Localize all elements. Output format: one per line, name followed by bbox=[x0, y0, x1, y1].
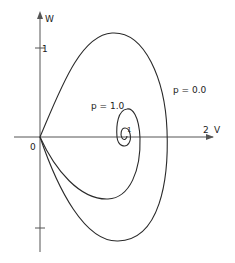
phase-plane-diagram: W 1 0 2 V 1 p = 1.0 p = 0.0 bbox=[0, 0, 235, 263]
fixed-point-label: 1 bbox=[127, 126, 131, 134]
w-tick-label: 1 bbox=[42, 44, 48, 54]
v-tick-label: 2 bbox=[203, 125, 209, 135]
curve-label-p-1: p = 1.0 bbox=[91, 101, 125, 111]
curve-label-p-0: p = 0.0 bbox=[173, 85, 207, 95]
curve-p-1 bbox=[40, 109, 140, 199]
v-axis bbox=[14, 134, 214, 140]
w-axis-label: W bbox=[45, 14, 54, 24]
v-axis-label: V bbox=[214, 125, 221, 135]
w-axis-arrow-icon bbox=[37, 11, 43, 19]
origin-label: 0 bbox=[30, 142, 36, 152]
